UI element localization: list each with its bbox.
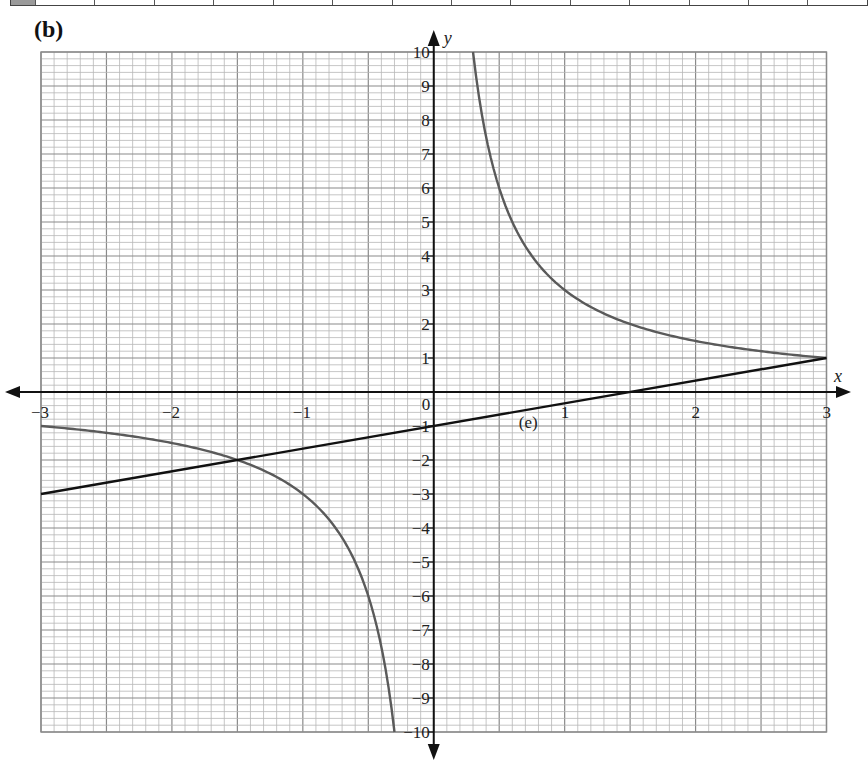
x-tick-label: −3 (31, 403, 49, 422)
y-tick-label: 8 (421, 111, 430, 130)
y-tick-label: −8 (412, 655, 430, 674)
y-tick-label: −9 (412, 689, 430, 708)
y-tick-label: 4 (421, 247, 430, 266)
y-tick-label: 5 (421, 213, 430, 232)
x-tick-label: −1 (293, 403, 311, 422)
x-tick-label: 0 (422, 395, 431, 414)
y-tick-label: −7 (412, 621, 431, 640)
y-tick-label: 10 (413, 43, 430, 62)
y-tick-label: 2 (421, 315, 430, 334)
x-axis-arrow-right-icon (836, 386, 851, 398)
y-tick-label: 6 (421, 179, 430, 198)
x-tick-label: 3 (823, 403, 832, 422)
y-tick-label: −5 (412, 553, 430, 572)
y-tick-label: 9 (421, 77, 430, 96)
y-tick-label: −3 (412, 485, 430, 504)
y-tick-label: −6 (412, 587, 430, 606)
x-axis-label: x (833, 366, 842, 386)
x-tick-label: −2 (162, 403, 180, 422)
x-tick-label: 2 (692, 403, 701, 422)
x-tick-label: 1 (561, 403, 570, 422)
annotation-e: (e) (519, 413, 538, 432)
curve-branch-positive (473, 52, 826, 358)
curve-branch-negative (41, 426, 394, 732)
y-tick-label: 7 (421, 145, 430, 164)
y-axis-label: y (442, 28, 452, 48)
y-tick-label: −10 (403, 723, 430, 742)
y-axis-arrow-down-icon (428, 744, 440, 760)
x-axis-arrow-left-icon (5, 386, 20, 398)
y-tick-label: −2 (412, 451, 430, 470)
y-tick-label: −4 (412, 519, 431, 538)
y-tick-label: 3 (421, 281, 430, 300)
y-tick-label: 1 (421, 349, 430, 368)
